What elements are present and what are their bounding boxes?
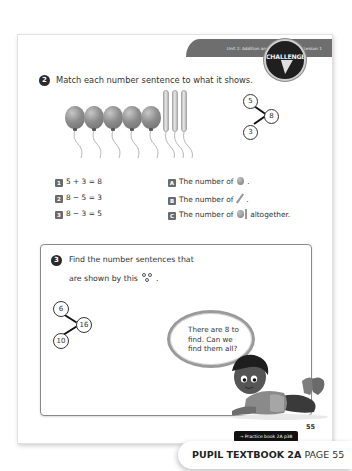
description-text: The number of xyxy=(179,195,233,204)
question-3-number: 3 xyxy=(51,255,62,266)
round-balloon-icon xyxy=(122,106,142,129)
question-2-prompt: Match each number sentence to what it sh… xyxy=(56,75,253,85)
prompt-suffix: . xyxy=(156,274,158,283)
long-balloon-icon xyxy=(236,193,244,203)
bond-part-6: 6 xyxy=(53,301,69,317)
unit-banner: Unit 2: Addition and subtraction (1), Le… xyxy=(186,39,332,57)
description-c[interactable]: CThe number of altogether. xyxy=(168,209,290,220)
speech-text: There are 8 to find. Can we find them al… xyxy=(188,325,248,354)
book-label: PUPIL TEXTBOOK 2A xyxy=(192,449,301,460)
sentence-2[interactable]: 28 − 5 = 3 xyxy=(55,193,102,203)
description-suffix: altogether. xyxy=(250,210,290,219)
balloon-strings xyxy=(65,128,215,163)
round-balloon-icon xyxy=(141,106,161,129)
bond-part-3: 3 xyxy=(243,125,258,140)
description-a[interactable]: AThe number of . xyxy=(168,177,250,187)
tag-3: 3 xyxy=(55,211,63,219)
round-balloon-icon xyxy=(103,106,123,129)
round-balloon-icon xyxy=(237,177,244,185)
tag-2: 2 xyxy=(55,195,63,203)
long-balloon-icon xyxy=(163,90,169,132)
description-suffix: . xyxy=(246,195,248,204)
child-character-illustration xyxy=(220,351,330,423)
balloons-illustration xyxy=(65,90,215,160)
question-2-number: 2 xyxy=(39,75,50,86)
description-text: The number of xyxy=(179,210,233,219)
question-3-prompt-line1: Find the number sentences that xyxy=(69,255,194,264)
description-b[interactable]: BThe number of . xyxy=(168,193,249,205)
bond-whole-16: 16 xyxy=(76,317,92,333)
lightning-bolt-icon xyxy=(277,60,293,74)
number-bond-icon xyxy=(142,273,153,283)
round-balloon-icon xyxy=(65,106,85,129)
long-balloon-icon xyxy=(181,90,187,132)
sentence-1[interactable]: 15 + 3 = 8 xyxy=(55,177,102,187)
round-balloon-icon xyxy=(237,210,244,218)
sentence-text: 8 − 3 = 5 xyxy=(66,209,102,218)
bond-part-10: 10 xyxy=(53,333,69,349)
long-balloon-icon xyxy=(245,209,247,219)
bond-whole-8: 8 xyxy=(264,109,279,124)
footer-book-tab: PUPIL TEXTBOOK 2A PAGE 55 xyxy=(178,441,352,469)
tag-1: 1 xyxy=(55,179,63,187)
tag-b: B xyxy=(168,197,176,205)
challenge-badge: CHALLENGE xyxy=(264,39,306,81)
sentence-text: 8 − 5 = 3 xyxy=(66,193,102,202)
tag-a: A xyxy=(168,179,176,187)
page-label: PAGE 55 xyxy=(304,449,344,460)
sentence-text: 5 + 3 = 8 xyxy=(66,177,102,186)
badge-label: CHALLENGE xyxy=(266,53,304,60)
description-text: The number of xyxy=(179,177,233,186)
tag-c: C xyxy=(168,212,176,220)
question-3-prompt-line2: are shown by this . xyxy=(69,273,158,283)
page-number: 55 xyxy=(306,423,315,431)
prompt-text: are shown by this xyxy=(69,274,138,283)
bond-part-5: 5 xyxy=(243,94,258,109)
round-balloon-icon xyxy=(84,106,104,129)
long-balloon-icon xyxy=(172,90,178,132)
sentence-3[interactable]: 38 − 3 = 5 xyxy=(55,209,102,219)
description-suffix: . xyxy=(247,177,249,186)
